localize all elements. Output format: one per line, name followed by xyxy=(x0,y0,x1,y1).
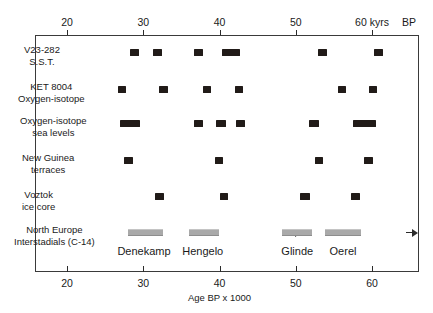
data-marker-0-1 xyxy=(153,49,161,56)
tick-mark-bottom-20 xyxy=(67,266,68,272)
tick-mark-top-30 xyxy=(143,30,144,35)
data-marker-0-5 xyxy=(374,49,382,56)
data-marker-1-3 xyxy=(235,86,243,93)
interstadial-bar-1 xyxy=(189,229,219,236)
tick-label-top-60: 60 kyrs xyxy=(355,16,389,28)
tick-label-bottom-20: 20 xyxy=(61,277,73,289)
interstadial-name-1: Hengelo xyxy=(182,245,223,258)
tick-mark-bottom-40 xyxy=(220,266,221,272)
row-label-4: Voztok ice core xyxy=(22,189,55,212)
data-marker-1-4 xyxy=(338,86,346,93)
row-label-0: V23-282 S.S.T. xyxy=(24,44,60,67)
data-marker-3-1 xyxy=(215,157,223,164)
data-marker-1-1 xyxy=(159,86,167,93)
data-marker-0-4 xyxy=(318,49,327,56)
data-marker-3-3 xyxy=(364,157,372,164)
data-marker-2-0 xyxy=(120,120,141,127)
top-axis-suffix-bp: BP xyxy=(402,16,416,28)
interstadial-arrow-1 xyxy=(189,228,231,237)
tick-label-top-20: 20 xyxy=(61,16,73,28)
tick-label-bottom-40: 40 xyxy=(214,277,226,289)
tick-label-bottom-30: 30 xyxy=(137,277,149,289)
tick-mark-bottom-30 xyxy=(143,266,144,272)
tick-mark-bottom-60 xyxy=(372,266,373,272)
data-marker-1-0 xyxy=(118,86,126,93)
data-marker-4-2 xyxy=(300,193,311,200)
data-marker-4-1 xyxy=(220,193,228,200)
data-marker-0-3 xyxy=(222,49,240,56)
interstadial-arrow-2 xyxy=(282,228,324,237)
tick-label-bottom-50: 50 xyxy=(290,277,302,289)
interstadial-name-2: Glinde xyxy=(281,245,313,258)
interstadial-name-0: Denekamp xyxy=(117,245,170,258)
data-marker-1-2 xyxy=(203,86,211,93)
x-axis-title: Age BP x 1000 xyxy=(188,292,251,304)
interstadial-bar-3 xyxy=(325,229,361,236)
tick-label-bottom-60: 60 xyxy=(366,277,378,289)
interstadial-bar-2 xyxy=(282,229,312,236)
chronostratigraphic-correlation-chart: 202030304040505060 kyrs60BPV23-282 S.S.T… xyxy=(0,0,433,313)
data-marker-4-3 xyxy=(351,193,359,200)
row-label-interstadials: North Europe Interstadials (C-14) xyxy=(14,224,95,247)
tick-mark-top-50 xyxy=(296,30,297,35)
data-marker-2-5 xyxy=(353,120,376,127)
tick-mark-top-20 xyxy=(67,30,68,35)
data-marker-0-2 xyxy=(194,49,202,56)
data-marker-3-2 xyxy=(315,157,323,164)
row-label-3: New Guinea terraces xyxy=(22,152,74,175)
data-marker-2-1 xyxy=(194,120,204,127)
interstadial-name-3: Oerel xyxy=(330,245,357,258)
data-marker-2-3 xyxy=(236,120,245,127)
tick-label-top-40: 40 xyxy=(214,16,226,28)
data-marker-4-0 xyxy=(155,193,164,200)
tick-label-top-50: 50 xyxy=(290,16,302,28)
data-marker-0-0 xyxy=(130,49,138,56)
tick-mark-bottom-50 xyxy=(296,266,297,272)
interstadial-arrow-0 xyxy=(128,228,175,237)
row-label-1: KET 8004 Oxygen-isotope xyxy=(18,81,85,104)
interstadial-arrow-head-1 xyxy=(412,229,418,237)
data-marker-2-2 xyxy=(216,120,225,127)
data-marker-2-4 xyxy=(309,120,320,127)
tick-mark-top-40 xyxy=(220,30,221,35)
tick-label-top-30: 30 xyxy=(137,16,149,28)
data-marker-1-5 xyxy=(369,86,377,93)
interstadial-arrow-3 xyxy=(325,228,373,237)
tick-mark-top-60 xyxy=(372,30,373,35)
row-label-2: Oxygen-isotope sea levels xyxy=(20,115,87,138)
data-marker-3-0 xyxy=(124,157,132,164)
interstadial-bar-0 xyxy=(128,229,163,236)
